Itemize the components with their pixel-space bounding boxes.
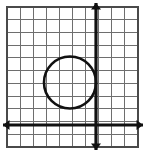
coordinate-grid-figure <box>0 0 146 153</box>
coordinate-plane-svg <box>0 0 146 153</box>
